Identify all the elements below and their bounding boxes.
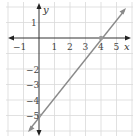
- y-tick-neg2: −2: [26, 65, 39, 75]
- x-axis-label: x: [124, 41, 130, 52]
- y-tick-neg3: −3: [26, 80, 40, 90]
- plotted-line: [28, 8, 126, 132]
- x-tick-5: 5: [114, 42, 120, 52]
- x-axis-arrow-right-icon: [125, 36, 131, 41]
- coordinate-graph: −1 1 2 3 4 5 x 1 −2 −3 −4 −5 y: [0, 0, 134, 140]
- y-axis-arrow-up-icon: [37, 3, 42, 9]
- x-intercept-point: [99, 36, 103, 40]
- x-tick-3: 3: [83, 42, 89, 52]
- y-tick-neg5: −5: [26, 111, 40, 121]
- y-axis-arrow-down-icon: [37, 130, 42, 136]
- x-tick-2: 2: [67, 42, 73, 52]
- y-tick-1: 1: [31, 18, 37, 28]
- y-axis-label: y: [42, 4, 49, 15]
- x-axis: [8, 36, 131, 41]
- x-axis-arrow-left-icon: [8, 36, 14, 41]
- x-tick-neg1: −1: [13, 42, 26, 52]
- y-tick-neg4: −4: [26, 96, 40, 106]
- x-tick-1: 1: [52, 42, 58, 52]
- x-tick-4: 4: [98, 42, 104, 52]
- line-arrow-up-icon: [120, 8, 127, 15]
